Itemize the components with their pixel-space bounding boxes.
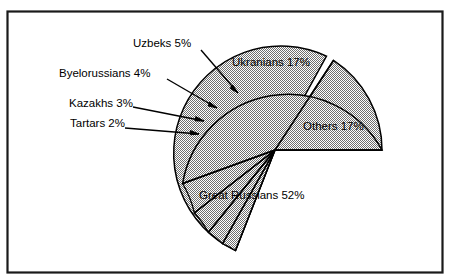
pie-label-ukranians: Ukranians 17% — [232, 56, 310, 68]
pie-chart-figure: Ukranians 17% Others 17% Great Russians … — [0, 0, 451, 279]
pie-label-great-russians: Great Russians 52% — [199, 189, 304, 201]
pie-label-uzbeks: Uzbeks 5% — [133, 37, 191, 49]
pie-label-byelorussians: Byelorussians 4% — [59, 67, 150, 79]
pie-label-tartars: Tartars 2% — [70, 117, 125, 129]
pie-chart-canvas: Ukranians 17% Others 17% Great Russians … — [0, 0, 451, 279]
pie-label-kazakhs: Kazakhs 3% — [69, 97, 133, 109]
pie-label-others: Others 17% — [303, 120, 364, 132]
